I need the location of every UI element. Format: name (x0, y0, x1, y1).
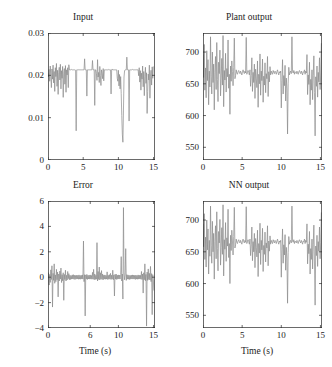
panel-title-nn-output: NN output (166, 180, 332, 191)
ytick-label: 700 (186, 216, 200, 225)
ytick-label: −4 (34, 324, 44, 333)
yaxis-plant-output: 550600650700 (166, 33, 199, 160)
xtick-label: 0 (46, 331, 51, 340)
ytick-label: 600 (186, 111, 200, 120)
xtick-label: 5 (240, 163, 245, 172)
ytick-label: 6 (40, 197, 45, 206)
panel-title-error: Error (0, 180, 166, 191)
trace-plant-output (203, 33, 322, 160)
ytick-label: −2 (34, 298, 44, 307)
plot-area-plant-output (203, 33, 322, 160)
xtick-label: 15 (149, 331, 158, 340)
yaxis-nn-output: 550600650700 (166, 201, 199, 328)
ytick-label: 4 (40, 222, 45, 231)
ytick-label: 0 (40, 156, 45, 165)
xaxis-error: 061015 (48, 331, 155, 343)
figure-canvas: Input 00.010.020.03 051015 Plant output … (0, 0, 332, 367)
xtick-label: 10 (277, 163, 286, 172)
panel-title-input: Input (0, 12, 166, 23)
yaxis-error: −4−20246 (0, 201, 44, 328)
ytick-label: 0.03 (28, 29, 44, 38)
ytick-label: 550 (186, 143, 200, 152)
xtick-label: 0 (201, 163, 206, 172)
panel-title-plant-output: Plant output (166, 12, 332, 23)
ytick-label: 2 (40, 247, 45, 256)
xtick-label: 0 (46, 163, 51, 172)
xtick-label: 6 (88, 331, 93, 340)
panel-plant-output: Plant output 550600650700 051015 (166, 12, 332, 182)
panel-input: Input 00.010.020.03 051015 (0, 12, 166, 182)
ytick-label: 0.02 (28, 71, 44, 80)
ytick-label: 600 (186, 279, 200, 288)
panel-error: Error −4−20246 061015 Time (s) (0, 180, 166, 367)
ytick-label: 650 (186, 247, 200, 256)
xtick-label: 15 (316, 163, 325, 172)
ytick-label: 650 (186, 79, 200, 88)
ytick-label: 0 (40, 273, 45, 282)
xtick-label: 0 (201, 331, 206, 340)
xlabel-error: Time (s) (30, 346, 160, 357)
xlabel-nn-output: Time (s) (188, 346, 326, 357)
panel-nn-output: NN output 550600650700 051015 Time (s) (166, 180, 332, 367)
xtick-label: 10 (114, 163, 123, 172)
trace-input (48, 33, 155, 160)
xaxis-nn-output: 051015 (203, 331, 322, 343)
plot-area-nn-output (203, 201, 322, 328)
trace-error (48, 201, 155, 328)
trace-nn-output (203, 201, 322, 328)
plot-area-input (48, 33, 155, 160)
xtick-label: 15 (149, 163, 158, 172)
ytick-label: 550 (186, 311, 200, 320)
xtick-label: 10 (114, 331, 123, 340)
xtick-label: 10 (277, 331, 286, 340)
ytick-label: 0.01 (28, 113, 44, 122)
yaxis-input: 00.010.020.03 (0, 33, 44, 160)
xaxis-input: 051015 (48, 163, 155, 175)
xtick-label: 5 (240, 331, 245, 340)
xtick-label: 5 (81, 163, 86, 172)
xtick-label: 15 (316, 331, 325, 340)
ytick-label: 700 (186, 48, 200, 57)
xaxis-plant-output: 051015 (203, 163, 322, 175)
plot-area-error (48, 201, 155, 328)
